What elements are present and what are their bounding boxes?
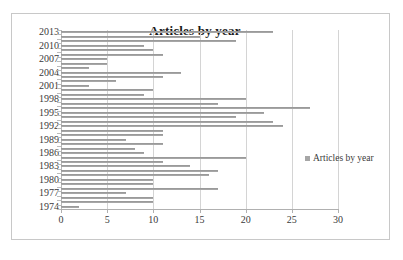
bar-fill: [61, 58, 107, 60]
chart-plot-wrapper: Articles by year 051015202530 2013201020…: [12, 14, 391, 241]
gridline-15: [200, 30, 201, 209]
bar-fill: [61, 85, 89, 87]
y-tick-mark: [57, 34, 61, 35]
bar-2005: [61, 67, 89, 69]
bar-fill: [61, 148, 135, 150]
bar-fill: [61, 31, 273, 33]
x-tick-label-5: 5: [95, 214, 119, 225]
y-tick-mark: [57, 205, 61, 206]
y-tick-label-2007: 2007: [19, 54, 59, 64]
bar-1994: [61, 116, 236, 118]
gridline-10: [153, 30, 154, 209]
y-tick-label-1980: 1980: [19, 175, 59, 185]
y-tick-mark: [57, 120, 61, 121]
bar-fill: [61, 192, 126, 194]
bar-2013: [61, 31, 273, 33]
gridline-20: [246, 30, 247, 209]
bar-1997: [61, 103, 218, 105]
bar-1999: [61, 94, 144, 96]
bar-fill: [61, 183, 153, 185]
bar-fill: [61, 170, 218, 172]
y-tick-label-1998: 1998: [19, 94, 59, 104]
y-tick-label-1977: 1977: [19, 188, 59, 198]
y-tick-mark: [57, 111, 61, 112]
legend-swatch-icon: [305, 156, 310, 161]
gridline-25: [292, 30, 293, 209]
y-tick-mark: [57, 187, 61, 188]
y-tick-label-2013: 2013: [19, 27, 59, 37]
bar-2009: [61, 49, 153, 51]
y-tick-label-1983: 1983: [19, 161, 59, 171]
y-tick-mark: [57, 142, 61, 143]
bar-fill: [61, 116, 236, 118]
bar-1992: [61, 125, 283, 127]
y-tick-mark: [57, 75, 61, 76]
y-tick-label-2004: 2004: [19, 68, 59, 78]
y-tick-mark: [57, 97, 61, 98]
bar-1987: [61, 148, 135, 150]
bar-fill: [61, 54, 163, 56]
y-tick-mark: [57, 48, 61, 49]
bar-1986: [61, 152, 144, 154]
y-tick-mark: [57, 160, 61, 161]
bar-2006: [61, 63, 107, 65]
y-tick-mark: [57, 124, 61, 125]
y-tick-mark: [57, 102, 61, 103]
x-tick-mark-5: [107, 209, 108, 213]
chart-legend: Articles by year: [305, 153, 374, 163]
y-tick-label-2010: 2010: [19, 41, 59, 51]
y-tick-mark: [57, 84, 61, 85]
bar-2000: [61, 89, 153, 91]
y-tick-mark: [57, 173, 61, 174]
gridline-0: [61, 30, 62, 209]
y-tick-mark: [57, 39, 61, 40]
y-tick-label-1992: 1992: [19, 121, 59, 131]
bar-fill: [61, 139, 126, 141]
bar-2007: [61, 58, 107, 60]
bar-fill: [61, 134, 163, 136]
bar-2003: [61, 76, 163, 78]
bar-1988: [61, 143, 163, 145]
y-tick-mark: [57, 57, 61, 58]
x-tick-label-15: 15: [188, 214, 212, 225]
y-tick-mark: [57, 61, 61, 62]
bar-fill: [61, 98, 246, 100]
bar-fill: [61, 206, 79, 208]
bar-2011: [61, 40, 236, 42]
y-tick-mark: [57, 178, 61, 179]
bar-1984: [61, 161, 163, 163]
bar-fill: [61, 63, 107, 65]
bar-fill: [61, 157, 246, 159]
bar-fill: [61, 67, 89, 69]
y-tick-mark: [57, 169, 61, 170]
y-tick-label-1974: 1974: [19, 202, 59, 212]
x-tick-label-30: 30: [326, 214, 350, 225]
bar-1983: [61, 165, 190, 167]
bar-fill: [61, 40, 236, 42]
y-tick-mark: [57, 66, 61, 67]
y-tick-label-1989: 1989: [19, 135, 59, 145]
bar-1990: [61, 134, 163, 136]
y-tick-mark: [57, 137, 61, 138]
bar-fill: [61, 121, 273, 123]
x-tick-mark-20: [246, 209, 247, 213]
bar-fill: [61, 161, 163, 163]
bar-fill: [61, 201, 153, 203]
bar-fill: [61, 179, 153, 181]
bar-fill: [61, 143, 163, 145]
bar-fill: [61, 94, 144, 96]
bar-fill: [61, 76, 163, 78]
y-tick-mark: [57, 128, 61, 129]
bar-fill: [61, 49, 153, 51]
x-tick-mark-10: [153, 209, 154, 213]
bar-fill: [61, 174, 209, 176]
bar-1993: [61, 121, 273, 123]
y-tick-mark: [57, 79, 61, 80]
bar-fill: [61, 72, 181, 74]
y-tick-mark: [57, 93, 61, 94]
bar-1977: [61, 192, 126, 194]
y-tick-label-1986: 1986: [19, 148, 59, 158]
y-tick-mark: [57, 52, 61, 53]
bar-fill: [61, 130, 163, 132]
bar-fill: [61, 112, 264, 114]
